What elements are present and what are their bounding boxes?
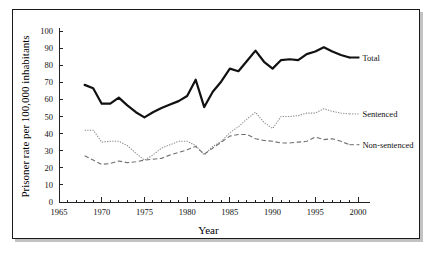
series-label-non-sentenced: Non-sentenced <box>362 140 414 150</box>
series-label-total: Total <box>362 53 380 63</box>
y-tick-label: 60 <box>45 94 54 104</box>
y-axis-title: Prisoner rate per 100,000 inhabitants <box>19 35 31 197</box>
series-labels-group: TotalSentencedNon-sentenced <box>349 53 414 150</box>
line-chart: 0102030405060708090100 19651970197519801… <box>13 10 419 238</box>
figure-container: 0102030405060708090100 19651970197519801… <box>0 0 435 255</box>
x-tick-label: 1965 <box>51 207 68 217</box>
y-tick-label: 20 <box>45 163 54 173</box>
x-tick-label: 1970 <box>93 207 110 217</box>
x-axis-ticks: 19651970197519801985199019952000 <box>51 197 367 217</box>
y-tick-label: 50 <box>45 112 54 122</box>
x-tick-label: 1995 <box>307 207 324 217</box>
x-tick-label: 2000 <box>350 207 367 217</box>
x-tick-label: 1980 <box>179 207 196 217</box>
series-line-non-sentenced <box>85 134 350 164</box>
x-tick-label: 1975 <box>136 207 153 217</box>
y-tick-label: 90 <box>45 43 54 53</box>
series-label-sentenced: Sentenced <box>362 109 398 119</box>
y-axis-ticks: 0102030405060708090100 <box>40 26 63 207</box>
y-tick-label: 30 <box>45 146 54 156</box>
y-tick-label: 100 <box>40 26 53 36</box>
y-tick-label: 10 <box>45 180 54 190</box>
y-tick-label: 0 <box>49 197 53 207</box>
y-tick-label: 80 <box>45 60 54 70</box>
x-tick-label: 1990 <box>264 207 281 217</box>
x-tick-label: 1985 <box>221 207 238 217</box>
x-axis-title: Year <box>198 224 219 236</box>
figure-frame: 0102030405060708090100 19651970197519801… <box>12 9 420 239</box>
y-tick-label: 40 <box>45 129 54 139</box>
series-line-total <box>85 47 350 117</box>
series-line-sentenced <box>85 109 350 160</box>
y-tick-label: 70 <box>45 77 54 87</box>
